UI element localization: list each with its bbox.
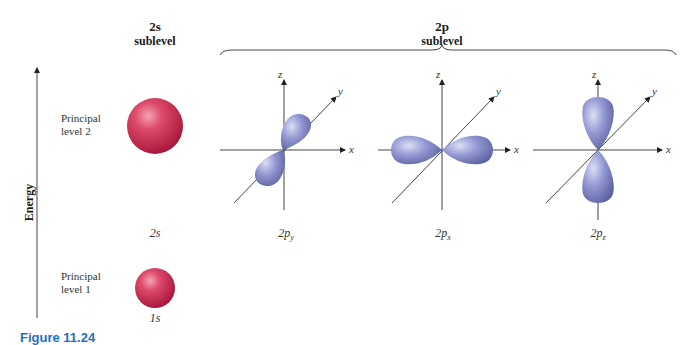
2px-orbital: z y x [378, 68, 519, 210]
2py-label-main: 2p [278, 226, 290, 240]
2s-label: 2s [140, 226, 170, 241]
2s-sublevel-text: sublevel [120, 34, 190, 49]
2pz-label-main: 2p [590, 226, 602, 240]
2px-label: 2px [423, 226, 463, 242]
2pz-label: 2pz [578, 226, 618, 242]
figure-caption-label: Figure 11.24 [20, 330, 95, 345]
level-1-line1: Principal [61, 270, 101, 283]
svg-text:y: y [651, 85, 657, 97]
2p-sublevel-header: 2p sublevel [405, 19, 479, 49]
energy-axis-label: Energy [22, 178, 37, 228]
2s-sublevel-header: 2s sublevel [120, 19, 190, 49]
level-2-line2: level 2 [61, 125, 101, 138]
2py-orbital: z y x [220, 68, 354, 210]
2py-label: 2py [266, 226, 306, 242]
level-1-line2: level 1 [61, 283, 101, 296]
2s-symbol: 2s [120, 19, 190, 34]
svg-text:x: x [348, 143, 354, 155]
svg-text:z: z [435, 68, 441, 80]
2pz-orbital: z y x [533, 68, 671, 220]
svg-text:x: x [665, 143, 671, 155]
svg-text:z: z [277, 68, 283, 80]
2p-sublevel-text: sublevel [405, 34, 479, 49]
principal-level-2-label: Principal level 2 [61, 112, 101, 138]
svg-text:y: y [337, 85, 343, 97]
1s-orbital-sphere [135, 268, 175, 308]
svg-text:y: y [495, 85, 501, 97]
2px-label-sub: x [447, 233, 451, 242]
1s-label: 1s [140, 311, 170, 326]
2pz-label-sub: z [602, 233, 605, 242]
2px-label-main: 2p [435, 226, 447, 240]
level-2-line1: Principal [61, 112, 101, 125]
principal-level-1-label: Principal level 1 [61, 270, 101, 296]
svg-text:x: x [513, 143, 519, 155]
2py-label-sub: y [290, 233, 294, 242]
2s-orbital-sphere [127, 98, 183, 154]
2p-symbol: 2p [405, 19, 479, 34]
svg-text:z: z [591, 68, 597, 80]
